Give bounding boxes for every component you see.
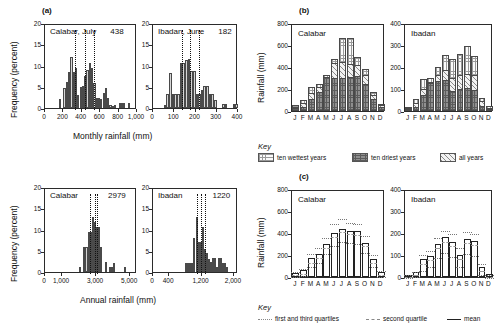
plot-b-ibadan: Ibadan xyxy=(404,24,492,112)
histogram-bar xyxy=(100,247,102,272)
x-tick xyxy=(168,273,169,276)
histogram-bar xyxy=(79,267,81,272)
bar-ten-driest xyxy=(370,99,377,111)
key-line-1 xyxy=(366,319,380,320)
quartile-marker xyxy=(419,255,428,256)
x-tick xyxy=(195,109,196,112)
y-tick-label: 400 xyxy=(270,64,288,71)
y-tick xyxy=(149,188,152,189)
panel-a-ylabel-bottom: Frequency (percent) xyxy=(9,205,19,282)
median-marker xyxy=(464,243,471,244)
x-tick-label: 2,000 xyxy=(217,277,249,284)
y-tick xyxy=(149,209,152,210)
y-tick xyxy=(288,24,291,25)
quartile-marker xyxy=(470,256,479,257)
y-tick-label: 400 xyxy=(383,20,401,27)
bar-ten-driest xyxy=(316,92,323,111)
quartile-marker xyxy=(448,257,457,258)
bar-ten-driest xyxy=(308,99,315,111)
quartile-marker xyxy=(315,263,324,264)
y-tick-label: 600 xyxy=(270,42,288,49)
y-tick-label: 10 xyxy=(130,227,149,234)
quartile-marker xyxy=(299,276,308,277)
plot-title-calabar-annual: Calabar2979 xyxy=(50,191,126,200)
median-marker xyxy=(300,274,307,275)
median-marker xyxy=(323,248,330,249)
key-c-label-2: mean xyxy=(464,315,480,322)
x-tick xyxy=(201,273,202,276)
bar-ten-driest xyxy=(413,107,420,111)
y-tick-label: 600 xyxy=(270,208,288,215)
plot-ibadan-june: Ibadan, June182 xyxy=(152,24,237,109)
plot-title-value-ibadan-annual: 1220 xyxy=(212,191,230,200)
y-tick-label: 200 xyxy=(383,230,401,237)
y-tick-label: 5 xyxy=(130,248,149,255)
y-tick-label: 5 xyxy=(22,84,41,91)
key-label-2: all years xyxy=(459,154,483,161)
y-tick xyxy=(288,90,291,91)
bar-mean xyxy=(323,244,330,277)
plot-title-ibadan-annual: Ibadan1220 xyxy=(158,191,230,200)
quartile-marker xyxy=(456,267,465,268)
y-tick xyxy=(149,252,152,253)
quartile-line xyxy=(95,194,96,274)
y-tick-label: 0 xyxy=(383,274,401,281)
plot-b-calabar: Calabar xyxy=(291,24,384,112)
median-marker xyxy=(420,264,427,265)
y-tick xyxy=(288,212,291,213)
median-marker xyxy=(362,246,369,247)
bar-ten-driest xyxy=(323,77,330,111)
quartile-line xyxy=(197,194,198,274)
quartile-marker xyxy=(291,272,300,273)
quartile-marker xyxy=(361,236,370,237)
month-tick-label: D xyxy=(483,280,493,287)
quartile-marker xyxy=(434,258,443,259)
y-tick xyxy=(401,68,404,69)
y-tick-label: 200 xyxy=(383,64,401,71)
y-tick-label: 0 xyxy=(130,269,149,276)
bar-mean xyxy=(362,243,369,277)
histogram-bar xyxy=(114,105,116,108)
month-tick-label: D xyxy=(483,114,493,121)
y-tick-label: 15 xyxy=(130,41,149,48)
median-marker xyxy=(331,237,338,238)
bar-ten-driest xyxy=(292,108,299,111)
y-tick xyxy=(288,278,291,279)
key-label-0: ten wettest years xyxy=(277,154,326,161)
quartile-line xyxy=(201,194,202,274)
plot-title-c-calabar: Calabar xyxy=(298,195,326,204)
bar-ten-driest xyxy=(420,95,427,112)
plot-title-ibadan-june: Ibadan, June182 xyxy=(158,27,232,36)
plot-title-calabar-july: Calabar, July438 xyxy=(50,27,124,36)
x-tick xyxy=(99,109,100,112)
key-line-0 xyxy=(258,319,272,320)
y-tick xyxy=(288,68,291,69)
y-tick-label: 10 xyxy=(22,227,41,234)
quartile-marker xyxy=(426,267,435,268)
histogram-bar xyxy=(225,104,228,108)
quartile-marker xyxy=(307,267,316,268)
y-tick-label: 10 xyxy=(130,63,149,70)
y-tick xyxy=(149,88,152,89)
month-tick-label: D xyxy=(375,114,385,121)
median-marker xyxy=(471,245,478,246)
quartile-line xyxy=(182,30,183,110)
plot-title-place-calabar-july: Calabar, July xyxy=(50,27,96,36)
bar-ten-driest xyxy=(362,84,369,112)
y-tick-label: 0 xyxy=(22,269,41,276)
y-tick-label: 400 xyxy=(270,230,288,237)
y-tick-label: 800 xyxy=(270,20,288,27)
y-tick-label: 15 xyxy=(22,41,41,48)
histogram-bar xyxy=(105,262,107,272)
quartile-marker xyxy=(299,269,308,270)
x-tick xyxy=(44,109,45,112)
y-tick-label: 400 xyxy=(383,186,401,193)
quartile-marker xyxy=(291,277,300,278)
quartile-marker xyxy=(369,267,378,268)
y-tick xyxy=(288,234,291,235)
histogram-bar xyxy=(124,267,126,272)
key-swatch-0 xyxy=(258,153,274,162)
quartile-marker xyxy=(470,234,479,235)
bar-ten-driest xyxy=(331,78,338,111)
y-tick-label: 20 xyxy=(130,184,149,191)
